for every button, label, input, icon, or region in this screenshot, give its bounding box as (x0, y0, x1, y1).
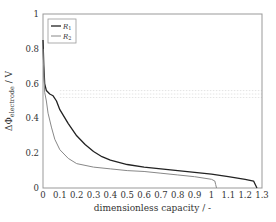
x-tick-label: 0.3 (87, 190, 101, 200)
y-axis-ticks: 00.20.40.60.81 (25, 9, 39, 193)
x-tick-label: 1.2 (238, 190, 252, 200)
y-tick-label: 0.8 (25, 44, 39, 54)
x-tick-label: 0.5 (120, 190, 134, 200)
x-axis-label: dimensionless capacity / - (94, 203, 211, 213)
legend-box (48, 19, 76, 43)
reference-dotted-lines (60, 91, 262, 98)
x-tick-label: 0.4 (104, 190, 118, 200)
x-tick-label: 0.9 (188, 190, 202, 200)
x-tick-label: 0 (40, 190, 45, 200)
x-tick-label: 1 (209, 190, 214, 200)
x-tick-label: 1.1 (222, 190, 236, 200)
x-tick-label: 0.2 (70, 190, 84, 200)
line-chart: 00.10.20.30.40.50.60.70.80.911.11.21.3 0… (0, 0, 276, 222)
y-tick-label: 0 (34, 183, 39, 193)
y-tick-label: 0.6 (25, 79, 39, 89)
x-tick-label: 0.8 (171, 190, 185, 200)
data-series (43, 40, 257, 188)
y-axis-label: ΔΦelectrode / V (4, 70, 16, 131)
y-axis-label-unit: / V (4, 70, 14, 86)
x-tick-label: 0.1 (53, 190, 67, 200)
series-line-r2 (43, 49, 217, 188)
legend: R1R2 (48, 19, 76, 43)
x-axis-ticks: 00.10.20.30.40.50.60.70.80.911.11.21.3 (40, 190, 268, 200)
series-line-r1 (43, 40, 257, 188)
x-tick-label: 0.6 (137, 190, 151, 200)
y-axis-label-sub: electrode (8, 86, 16, 117)
x-tick-label: 1.3 (255, 190, 269, 200)
y-tick-label: 1 (34, 9, 39, 19)
y-axis-label-main: ΔΦ (4, 117, 14, 131)
y-tick-label: 0.4 (25, 113, 39, 123)
x-tick-label: 0.7 (154, 190, 168, 200)
y-tick-label: 0.2 (25, 148, 39, 158)
